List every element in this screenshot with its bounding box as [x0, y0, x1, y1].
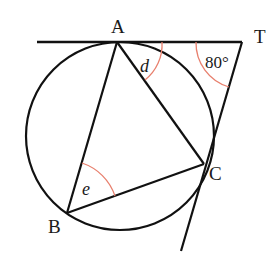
label-point-B: B — [48, 216, 61, 237]
label-point-C: C — [209, 163, 222, 184]
chord-AC — [117, 42, 204, 164]
label-point-A: A — [111, 16, 125, 37]
geometry-figure: A T B C d 80° e — [0, 0, 279, 264]
diagram-canvas: A T B C d 80° e — [0, 0, 279, 264]
label-angle-e: e — [82, 179, 90, 199]
chord-AB — [67, 42, 117, 213]
label-angle-80: 80° — [205, 53, 229, 72]
label-point-T: T — [254, 26, 266, 47]
circle — [26, 42, 214, 230]
label-angle-d: d — [140, 56, 150, 76]
